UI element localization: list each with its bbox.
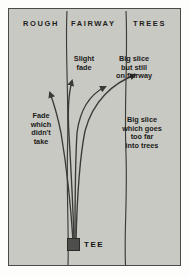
trajectory-big-slice-fairway (75, 87, 105, 241)
annotation-big-slice-trees-line-4: into trees (113, 142, 171, 151)
annotation-big-slice-fairway-line-3: on fairway (108, 72, 160, 81)
annotation-big-slice-trees: Big slice which goes too far into trees (113, 116, 171, 150)
annotation-fade-didnt-take-line-4: take (24, 138, 58, 147)
tee-marker-icon (67, 238, 80, 251)
tee-label: TEE (84, 240, 104, 249)
diagram-page: ROUGH FAIRWAY TREES Slight fade Big slic… (0, 0, 190, 277)
zone-label-rough: ROUGH (23, 19, 59, 28)
diagram-frame: ROUGH FAIRWAY TREES Slight fade Big slic… (8, 8, 181, 266)
zone-label-fairway: FAIRWAY (71, 19, 116, 28)
annotation-fade-didnt-take: Fade which didn't take (24, 112, 58, 146)
annotation-slight-fade: Slight fade (67, 55, 101, 72)
zone-label-trees: TREES (133, 19, 166, 28)
annotation-slight-fade-line-2: fade (67, 64, 101, 73)
annotation-big-slice-fairway: Big slice but still on fairway (108, 55, 160, 81)
zone-divider-rough-fairway (66, 11, 68, 265)
